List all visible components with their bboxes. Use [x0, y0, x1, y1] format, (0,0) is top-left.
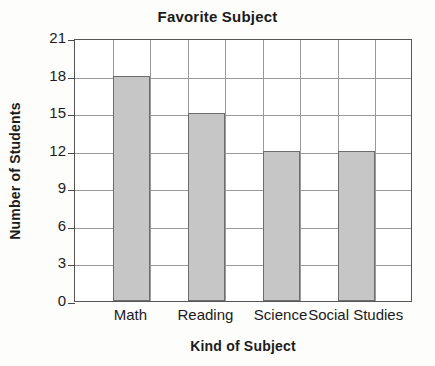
y-axis-tick [68, 303, 75, 304]
y-axis-tick [68, 190, 75, 191]
y-axis-tick-label: 21 [34, 29, 66, 46]
y-axis-tick [68, 265, 75, 266]
y-axis-tick-label: 12 [34, 142, 66, 159]
y-axis-tick-label: 18 [34, 67, 66, 84]
plot-area [74, 39, 412, 302]
chart-title: Favorite Subject [0, 8, 435, 25]
y-axis-label: Number of Students [7, 102, 23, 239]
bar-science [263, 151, 301, 301]
bar-math [113, 76, 151, 301]
gridline-vertical [300, 40, 301, 301]
y-axis-tick-label: 15 [34, 104, 66, 121]
y-axis-tick-label: 6 [34, 217, 66, 234]
y-axis-tick [68, 78, 75, 79]
gridline-vertical [225, 40, 226, 301]
gridline-vertical [150, 40, 151, 301]
y-axis-tick [68, 228, 75, 229]
y-axis-tick-label: 0 [34, 292, 66, 309]
y-axis-tick [68, 153, 75, 154]
y-axis-tick [68, 115, 75, 116]
x-axis-label: Kind of Subject [74, 338, 412, 354]
bar-reading [188, 113, 226, 301]
x-axis-label-social-studies: Social Studies [296, 306, 416, 323]
y-axis-label-container: Number of Students [2, 39, 28, 302]
bar-social-studies [338, 151, 376, 301]
y-axis-tick-label: 3 [34, 254, 66, 271]
gridline-vertical [375, 40, 376, 301]
chart-page: Favorite Subject Number of Students 0369… [0, 0, 435, 366]
y-axis-tick-label: 9 [34, 179, 66, 196]
y-axis-tick [68, 40, 75, 41]
